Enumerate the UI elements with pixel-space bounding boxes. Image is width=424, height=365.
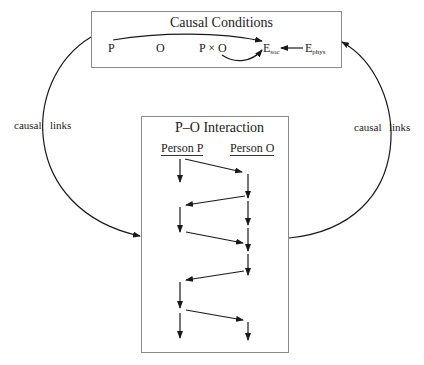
p-to-o-3	[186, 310, 243, 320]
p-to-o-2	[186, 232, 243, 243]
o-to-p-1	[186, 196, 245, 205]
o-to-p-2	[186, 271, 244, 280]
diagram-canvas: Causal Conditions P O P × O Esoc Ephys P…	[0, 0, 424, 365]
left-causal-link-arrow	[43, 37, 140, 236]
p-to-esoc-arrow	[113, 34, 262, 41]
right-causal-link-arrow	[289, 42, 391, 238]
pxo-to-esoc-arrow	[222, 50, 262, 61]
arrows-layer	[0, 0, 424, 365]
p-to-o-1	[185, 159, 242, 172]
